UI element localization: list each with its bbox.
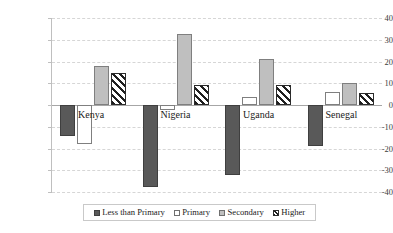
legend-swatch-icon-secondary (219, 210, 225, 216)
bar-kenya-secondary (94, 66, 109, 105)
bar-senegal-secondary (342, 83, 357, 105)
legend-item-primary: Primary (174, 208, 210, 217)
bar-uganda-primary (242, 97, 257, 105)
legend-label-primary: Primary (182, 208, 210, 217)
bar-nigeria-less-than-primary (143, 105, 158, 187)
legend-item-higher: Higher (273, 208, 305, 217)
bar-group-kenya (60, 18, 126, 192)
category-label-uganda: Uganda (243, 110, 274, 120)
legend-swatch-icon-higher (273, 210, 279, 216)
category-label-senegal: Senegal (326, 110, 358, 120)
chart-legend: Less than Primary Primary Secondary High… (83, 204, 316, 221)
bar-senegal-primary (325, 92, 340, 105)
bar-group-uganda (225, 18, 291, 192)
plot-area: KenyaNigeriaUgandaSenegal (52, 18, 382, 192)
bar-group-senegal (308, 18, 374, 192)
legend-item-secondary: Secondary (219, 208, 264, 217)
legend-item-less-than-primary: Less than Primary (94, 208, 165, 217)
legend-label-higher: Higher (281, 208, 305, 217)
category-label-kenya: Kenya (78, 110, 104, 120)
bar-nigeria-higher (194, 85, 209, 105)
legend-label-less-than-primary: Less than Primary (102, 208, 165, 217)
legend-label-secondary: Secondary (228, 208, 264, 217)
bar-senegal-less-than-primary (308, 105, 323, 146)
bar-chart: 403020100-10-20-30-40 KenyaNigeriaUganda… (0, 0, 393, 233)
bar-kenya-less-than-primary (60, 105, 75, 136)
bar-kenya-higher (111, 73, 126, 105)
bar-nigeria-secondary (177, 34, 192, 105)
category-label-nigeria: Nigeria (161, 110, 191, 120)
legend-swatch-icon-less-than-primary (94, 210, 100, 216)
legend-swatch-icon-primary (174, 210, 180, 216)
bar-uganda-higher (276, 85, 291, 105)
bar-uganda-less-than-primary (225, 105, 240, 175)
gridline (52, 192, 382, 193)
bar-group-nigeria (143, 18, 209, 192)
bar-uganda-secondary (259, 59, 274, 105)
bar-senegal-higher (359, 93, 374, 105)
